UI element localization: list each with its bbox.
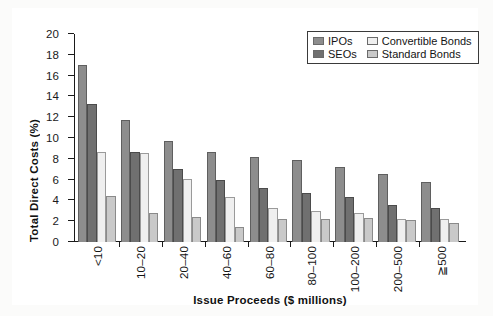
bar: [268, 208, 277, 242]
x-axis-tick-label: ≧500: [435, 246, 449, 276]
bar-group: [335, 34, 378, 242]
x-axis-label-cell: 10–20: [121, 244, 164, 296]
bar: [225, 197, 234, 242]
y-axis-tick-label: 6: [53, 174, 60, 186]
y-axis-tick-label: 4: [53, 194, 60, 206]
x-axis-tick-label: 200–500: [392, 246, 404, 292]
y-axis-tick-label: 14: [46, 90, 59, 102]
x-axis-tick-label: 60–80: [264, 246, 276, 279]
legend-item: Standard Bonds: [367, 48, 472, 60]
x-axis-label-cell: 40–60: [207, 244, 250, 296]
x-axis-label-cell: 100–200: [335, 244, 378, 296]
bar: [216, 180, 225, 242]
bar-groups: [74, 34, 466, 242]
bar: [421, 182, 430, 242]
bar: [364, 218, 373, 242]
legend-item: SEOs: [313, 48, 357, 60]
y-axis-tick-label: 8: [53, 153, 60, 165]
bar: [292, 160, 301, 242]
legend-label: Standard Bonds: [382, 48, 461, 60]
x-axis-tick-label: 10–20: [135, 246, 147, 279]
bar: [106, 196, 115, 242]
bar: [345, 197, 354, 242]
bar-group: [207, 34, 250, 242]
x-axis-title: Issue Proceeds ($ millions): [74, 294, 466, 306]
bar: [173, 169, 182, 242]
bar-group: [292, 34, 335, 242]
bar: [78, 65, 87, 242]
legend-label: SEOs: [328, 48, 357, 60]
chart-legend: IPOsConvertible BondsSEOsStandard Bonds: [307, 31, 479, 64]
bar: [140, 153, 149, 242]
bar: [354, 213, 363, 242]
bar: [149, 213, 158, 242]
y-axis-title: Total Direct Costs (%): [28, 34, 40, 242]
x-axis-tick-label: 40–60: [221, 246, 233, 279]
x-axis-tick-label: <10: [92, 246, 104, 266]
y-axis-tick-label: 18: [46, 49, 59, 61]
bar: [406, 220, 415, 242]
bar: [302, 193, 311, 242]
x-axis-tick-labels: <1010–2020–4040–6060–8080–100100–200200–…: [74, 244, 466, 296]
plot-area: 02468101214161820: [74, 34, 466, 242]
x-axis-label-cell: 200–500: [378, 244, 421, 296]
bar: [388, 205, 397, 242]
x-axis-label-cell: 20–40: [164, 244, 207, 296]
legend-item: Convertible Bonds: [367, 35, 472, 47]
y-axis-tick-label: 0: [53, 236, 60, 248]
bar-group: [378, 34, 421, 242]
x-axis-tick-label: 80–100: [306, 246, 318, 286]
legend-label: Convertible Bonds: [382, 35, 472, 47]
bar: [449, 223, 458, 242]
bar: [130, 152, 139, 242]
bar-group: [164, 34, 207, 242]
legend-item: IPOs: [313, 35, 357, 47]
bar-group: [250, 34, 293, 242]
bar: [87, 104, 96, 242]
bar: [121, 120, 130, 242]
legend-swatch: [313, 37, 324, 45]
x-axis-label-cell: ≧500: [421, 244, 464, 296]
bar: [321, 219, 330, 242]
figure-container: Total Direct Costs (%) 02468101214161820…: [0, 0, 493, 316]
bar: [397, 219, 406, 242]
bar: [378, 174, 387, 242]
bar: [207, 152, 216, 242]
y-axis-tick-label: 16: [46, 70, 59, 82]
y-axis-tick-label: 2: [53, 215, 60, 227]
y-axis-tick-label: 10: [46, 132, 59, 144]
legend-swatch: [367, 50, 378, 58]
bar: [235, 227, 244, 242]
x-axis-label-cell: 60–80: [250, 244, 293, 296]
bar: [335, 167, 344, 242]
bar: [250, 157, 259, 242]
bar: [183, 179, 192, 242]
bar: [164, 141, 173, 242]
x-axis-label-cell: <10: [78, 244, 121, 296]
bar: [278, 219, 287, 242]
x-axis-tick-label: 100–200: [349, 246, 361, 292]
bar: [311, 211, 320, 242]
x-axis-tick-label: 20–40: [178, 246, 190, 279]
y-axis-tick-label: 20: [46, 28, 59, 40]
bar: [259, 188, 268, 242]
legend-swatch: [367, 37, 378, 45]
bar-group: [421, 34, 464, 242]
legend-swatch: [313, 50, 324, 58]
legend-label: IPOs: [328, 35, 352, 47]
y-axis-tick-label: 12: [46, 111, 59, 123]
chart-card: Total Direct Costs (%) 02468101214161820…: [12, 8, 478, 305]
bar: [440, 219, 449, 242]
bar: [192, 217, 201, 242]
bar: [431, 208, 440, 242]
bar-group: [78, 34, 121, 242]
bar-group: [121, 34, 164, 242]
bar: [97, 152, 106, 242]
x-axis-label-cell: 80–100: [292, 244, 335, 296]
